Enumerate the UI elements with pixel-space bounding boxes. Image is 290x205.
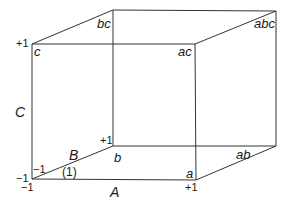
vertex-label-bc: bc [97, 17, 111, 30]
vertex-label-a: a [186, 167, 193, 180]
axis-label-A: A [110, 185, 119, 199]
edge-a-ac [195, 44, 196, 180]
axis-B-high: +1 [100, 135, 113, 146]
axis-C-high: +1 [16, 38, 29, 49]
vertex-label-ab: ab [236, 148, 250, 161]
axis-B-low: −1 [33, 164, 46, 175]
axis-label-C: C [15, 105, 25, 119]
vertex-label-c: c [34, 45, 41, 58]
axis-A-low: −1 [21, 182, 34, 193]
vertex-label-ac: ac [178, 45, 192, 58]
vertex-label-b: b [114, 151, 121, 164]
edge-bc-abc [113, 10, 276, 11]
vertex-label-abc: abc [254, 17, 275, 30]
edge-origin-a [32, 179, 196, 180]
axis-A-high: +1 [185, 182, 198, 193]
factorial-cube-diagram: bc abc c ac b ab a (1) C B A +1 −1 −1 +1… [0, 0, 290, 205]
axis-label-B: B [69, 148, 78, 162]
vertex-label-origin: (1) [62, 166, 77, 178]
